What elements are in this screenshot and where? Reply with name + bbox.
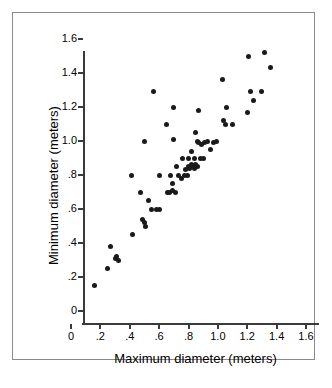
data-point — [129, 173, 134, 178]
data-point — [92, 283, 97, 288]
data-point — [246, 54, 251, 59]
x-tick-label: 1.0 — [203, 331, 233, 342]
data-point — [205, 139, 210, 144]
data-point — [143, 224, 148, 229]
data-point — [171, 105, 176, 110]
caption-sliver — [16, 378, 256, 384]
data-point — [185, 173, 190, 178]
data-point — [208, 147, 213, 152]
data-point — [245, 110, 250, 115]
data-point — [224, 105, 229, 110]
data-point — [157, 173, 162, 178]
data-point — [173, 190, 178, 195]
x-tick-label: .6 — [144, 331, 174, 342]
data-point — [142, 139, 147, 144]
data-point — [186, 156, 191, 161]
data-point — [189, 149, 194, 154]
data-point — [151, 89, 156, 94]
data-point — [230, 122, 235, 127]
x-tick-label: 1.6 — [291, 331, 321, 342]
data-point — [251, 98, 256, 103]
plot-area — [83, 51, 318, 323]
data-point — [164, 122, 169, 127]
y-axis-title: Minimum diameter (meters) — [46, 61, 61, 311]
data-point — [157, 207, 162, 212]
x-tick-label: .8 — [174, 331, 204, 342]
data-point — [138, 190, 143, 195]
data-point — [116, 258, 121, 263]
x-tick-label: .4 — [115, 331, 145, 342]
x-tick-label: .2 — [85, 331, 115, 342]
x-axis-title: Maximum diameter (meters) — [63, 351, 328, 366]
data-point — [223, 122, 228, 127]
data-point — [192, 156, 197, 161]
figure-root: 0.2.4.6.81.01.21.41.6 0.2.4.6.81.01.21.4… — [0, 0, 332, 388]
x-tick-label: 0 — [56, 331, 86, 342]
data-point — [180, 156, 185, 161]
figure-frame: 0.2.4.6.81.01.21.41.6 0.2.4.6.81.01.21.4… — [12, 12, 315, 360]
data-point — [248, 89, 253, 94]
data-point — [195, 164, 200, 169]
x-tick-label: 1.2 — [232, 331, 262, 342]
data-point — [168, 173, 173, 178]
x-tick-label: 1.4 — [262, 331, 292, 342]
data-point — [201, 156, 206, 161]
data-point — [170, 181, 175, 186]
data-point — [214, 139, 219, 144]
